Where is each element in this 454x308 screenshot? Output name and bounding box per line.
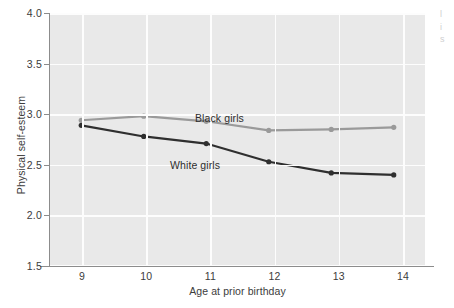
y-axis-tick	[44, 266, 50, 267]
y-axis-tick	[44, 165, 50, 166]
plot-area: Black girls White girls	[50, 13, 425, 266]
gridline-vertical	[275, 13, 277, 266]
series-plot	[50, 13, 425, 266]
edge-text-line: i	[440, 21, 454, 34]
y-axis-tick	[44, 64, 50, 65]
y-axis-tick	[44, 13, 50, 14]
data-point	[391, 172, 396, 177]
series-line-white-girls	[81, 125, 394, 175]
x-axis-tick-label: 10	[131, 270, 161, 282]
gridline-vertical	[146, 13, 148, 266]
gridline-horizontal	[50, 165, 425, 167]
right-edge-text-fragment: lis	[440, 8, 454, 46]
gridline-vertical	[210, 13, 212, 266]
data-point	[204, 141, 209, 146]
y-axis-tick-label: 1.5	[0, 260, 42, 272]
data-point	[266, 128, 271, 133]
gridline-horizontal	[50, 215, 425, 217]
y-axis-tick-label: 4.0	[0, 7, 42, 19]
chart-figure: Black girls White girls 4.0 3.5 3.0 2.5 …	[0, 0, 454, 308]
gridline-horizontal	[50, 13, 425, 15]
data-point	[391, 125, 396, 130]
y-axis-tick	[44, 215, 50, 216]
data-point	[329, 170, 334, 175]
x-axis-tick-label: 9	[67, 270, 97, 282]
y-axis-tick	[44, 114, 50, 115]
data-point	[329, 127, 334, 132]
gridline-vertical	[339, 13, 341, 266]
gridline-horizontal	[50, 64, 425, 66]
y-axis-line	[49, 13, 50, 266]
x-axis-tick-label: 12	[260, 270, 290, 282]
x-axis-tick-label: 14	[388, 270, 418, 282]
edge-text-line: s	[440, 33, 454, 46]
series-label-white-girls: White girls	[170, 159, 220, 171]
x-axis-tick-label: 11	[195, 270, 225, 282]
x-axis-title: Age at prior birthday	[50, 285, 425, 297]
y-axis-title: Physical self-esteem	[15, 45, 27, 245]
gridline-vertical	[403, 13, 405, 266]
gridline-vertical	[82, 13, 84, 266]
series-label-black-girls: Black girls	[195, 112, 244, 124]
x-axis-line	[40, 266, 434, 267]
data-point	[266, 159, 271, 164]
edge-text-line: l	[440, 8, 454, 21]
x-axis-tick-label: 13	[324, 270, 354, 282]
